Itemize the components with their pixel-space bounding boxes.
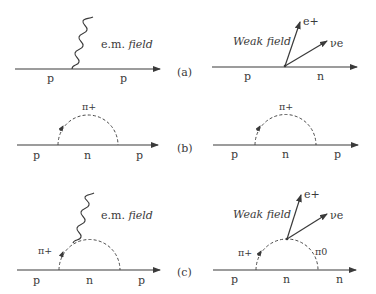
weak-field-label: Weak field: [233, 35, 291, 48]
pion-loop-dashed: [256, 239, 318, 270]
panel-a-right-diagram: Weak field e+ νe p n: [212, 15, 357, 83]
outgoing-particle-label: p: [334, 148, 341, 161]
positron-label: e+: [303, 15, 319, 28]
panel-b-left-diagram: π+ p n p: [17, 101, 158, 162]
pion-label: π+: [279, 101, 293, 112]
outgoing-particle-label: n: [336, 273, 343, 286]
neutrino-label: νe: [330, 209, 343, 222]
outgoing-particle-label: p: [120, 72, 127, 85]
panel-label-a: (a): [177, 66, 192, 79]
positron-label: e+: [304, 188, 320, 201]
incoming-particle-label: p: [244, 70, 251, 83]
panel-label-b: (b): [177, 142, 193, 155]
neutrino-label: νe: [330, 37, 343, 50]
pion-label: π+: [38, 245, 52, 256]
internal-particle-label: n: [86, 274, 93, 287]
incoming-particle-label: p: [47, 72, 54, 85]
pion-loop-dashed: [59, 240, 120, 271]
incoming-particle-label: p: [231, 148, 238, 161]
panel-c-left-diagram: e.m. field π+ p n p: [17, 193, 160, 287]
internal-particle-label: n: [282, 148, 289, 161]
pion-loop-dashed: [255, 114, 316, 145]
incoming-particle-label: p: [231, 273, 238, 286]
panel-label-c: (c): [177, 266, 192, 279]
pion-label: π+: [82, 101, 96, 112]
pion-loop-dashed: [58, 115, 118, 145]
outgoing-particle-label: p: [138, 274, 145, 287]
vertex-dot: [284, 65, 287, 68]
neutrino-arrow: [287, 214, 327, 239]
vertex-dot: [286, 238, 289, 241]
pion-zero-label: π0: [315, 246, 327, 257]
em-field-label: e.m. field: [101, 38, 153, 51]
panel-b-right-diagram: π+ p n p: [213, 101, 358, 161]
panel-c-right-diagram: Weak field e+ νe π+ π0 p n n: [213, 188, 356, 286]
panel-a-left-diagram: e.m. field p p: [15, 17, 160, 85]
internal-particle-label: n: [84, 149, 91, 162]
outgoing-particle-label: n: [317, 70, 324, 83]
neutrino-arrow: [285, 41, 327, 66]
incoming-particle-label: p: [33, 149, 40, 162]
em-field-label: e.m. field: [101, 209, 153, 222]
feynman-diagram-figure: e.m. field p p (a) Weak field e+ νe p n …: [0, 0, 376, 294]
internal-particle-label: n: [283, 273, 290, 286]
photon-wavy-line: [72, 17, 93, 69]
photon-wavy-line: [73, 193, 94, 243]
pion-plus-label: π+: [238, 247, 252, 258]
incoming-particle-label: p: [33, 274, 40, 287]
outgoing-particle-label: p: [136, 149, 143, 162]
weak-field-label: Weak field: [233, 208, 291, 221]
